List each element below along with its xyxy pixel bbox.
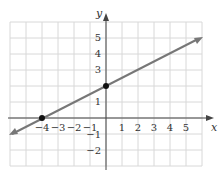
y-tick-label: −1 [86, 129, 101, 140]
y-axis-arrow-icon [103, 13, 109, 21]
x-tick-label: 5 [183, 122, 189, 133]
x-axis-label: x [211, 121, 218, 134]
x-tick-label: 1 [119, 122, 125, 133]
point-x-intercept [39, 115, 45, 121]
x-tick-label: 3 [151, 122, 157, 133]
x-tick-label: 2 [135, 122, 141, 133]
x-tick-label: 4 [167, 122, 173, 133]
y-tick-label: 4 [95, 48, 101, 59]
y-axis-label: y [95, 7, 103, 20]
x-tick-label: −4 [35, 122, 50, 133]
x-tick-label: −2 [67, 122, 82, 133]
x-tick-labels: −4 −3 −2 −1 1 2 3 4 5 [35, 122, 190, 133]
y-tick-label: 1 [95, 96, 101, 107]
y-axis [103, 13, 109, 170]
point-y-intercept [103, 83, 109, 89]
y-tick-label: −2 [86, 145, 101, 156]
coordinate-plane: −4 −3 −2 −1 1 2 3 4 5 5 4 3 1 −1 −2 x y [0, 0, 223, 174]
y-tick-label: 3 [95, 64, 101, 75]
y-tick-label: 5 [95, 32, 101, 43]
x-tick-label: −3 [51, 122, 66, 133]
